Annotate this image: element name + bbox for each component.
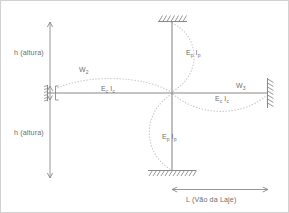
label-load-w3-subscript: 3	[243, 85, 246, 91]
structural-frame-diagram: h (altura) h (altura) W2 W3 Ec Ic Ec Ic …	[0, 0, 289, 213]
label-stiffness-beam-left: Ec Ic	[101, 85, 115, 94]
label-load-w3-main: W	[236, 82, 243, 89]
label-height-bottom: h (altura)	[14, 129, 44, 136]
label-span-l: L (Vão da Laje)	[186, 196, 236, 203]
label-height-top: h (altura)	[14, 49, 44, 56]
image-border	[1, 1, 289, 213]
label-stiffness-column-bottom: Ep Ip	[162, 133, 176, 142]
label-load-w2: W2	[79, 66, 89, 75]
label-load-w3: W3	[236, 82, 246, 91]
label-stiffness-beam-right-i-sub: c	[226, 98, 229, 104]
label-load-w2-main: W	[79, 66, 86, 73]
label-stiffness-beam-left-i-sub: c	[112, 88, 115, 94]
label-stiffness-beam-right: Ec Ic	[215, 95, 229, 104]
label-load-w2-subscript: 2	[86, 69, 89, 75]
label-stiffness-column-bottom-i-sub: p	[174, 136, 177, 142]
label-stiffness-column-top: Ep Ip	[186, 49, 200, 58]
frame-drawing	[0, 0, 289, 213]
label-stiffness-column-top-i-sub: p	[198, 52, 201, 58]
